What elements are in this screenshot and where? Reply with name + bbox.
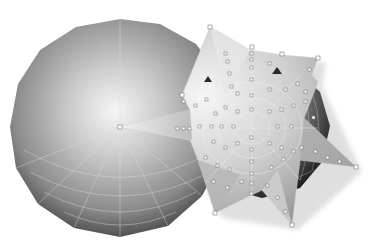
3d-render-scene [0, 0, 376, 250]
